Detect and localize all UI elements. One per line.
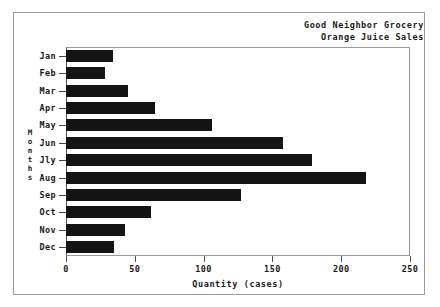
y-axis-label-apr: Apr — [39, 103, 56, 113]
chart-title-line1: Good Neighbor Grocery — [304, 19, 424, 31]
bar-row: Jly — [66, 154, 410, 166]
bar-row: Oct — [66, 206, 410, 218]
x-axis-label-50: 50 — [129, 264, 140, 274]
bar-oct — [66, 206, 151, 218]
bar-row: Feb — [66, 67, 410, 79]
bar-dec — [66, 241, 114, 253]
y-axis-tick — [59, 108, 66, 109]
x-axis-tick — [66, 256, 67, 262]
bar-feb — [66, 67, 105, 79]
y-axis-title-letter: s — [25, 173, 35, 182]
y-axis-tick — [59, 230, 66, 231]
y-axis-label-aug: Aug — [39, 173, 56, 183]
x-axis-tick — [135, 256, 136, 262]
x-axis-label-200: 200 — [333, 264, 350, 274]
bar-sep — [66, 189, 241, 201]
y-axis-tick — [59, 212, 66, 213]
y-axis-label-dec: Dec — [39, 242, 56, 252]
chart-title-block: Good Neighbor Grocery Orange Juice Sales — [304, 19, 424, 43]
x-axis-tick — [204, 256, 205, 262]
bar-apr — [66, 102, 155, 114]
chart-title-line2: Orange Juice Sales — [304, 31, 424, 43]
bar-row: Apr — [66, 102, 410, 114]
y-axis-tick — [59, 125, 66, 126]
y-axis-title: Months — [25, 128, 35, 182]
bar-jan — [66, 50, 113, 62]
bar-jly — [66, 154, 312, 166]
y-axis-tick — [59, 91, 66, 92]
y-axis-tick — [59, 160, 66, 161]
x-axis-tick — [341, 256, 342, 262]
y-axis-label-feb: Feb — [39, 68, 56, 78]
y-axis-tick — [59, 73, 66, 74]
plot-area: JanFebMarAprMayJunJlyAugSepOctNovDec 050… — [66, 47, 410, 256]
x-axis-label-100: 100 — [195, 264, 212, 274]
y-axis-title-letter: t — [25, 155, 35, 164]
x-axis-label-150: 150 — [264, 264, 281, 274]
y-axis-label-sep: Sep — [39, 190, 56, 200]
bar-nov — [66, 224, 125, 236]
y-axis-label-jly: Jly — [39, 155, 56, 165]
bar-row: Jan — [66, 50, 410, 62]
bar-row: Mar — [66, 85, 410, 97]
y-axis-label-may: May — [39, 120, 56, 130]
y-axis-tick — [59, 195, 66, 196]
bar-row: Aug — [66, 172, 410, 184]
y-axis-label-jan: Jan — [39, 51, 56, 61]
bar-row: Dec — [66, 241, 410, 253]
y-axis-tick — [59, 56, 66, 57]
bar-row: Sep — [66, 189, 410, 201]
x-axis-label-0: 0 — [63, 264, 69, 274]
x-axis-label-250: 250 — [402, 264, 419, 274]
y-axis-title-letter: h — [25, 164, 35, 173]
y-axis-tick — [59, 143, 66, 144]
y-axis-label-nov: Nov — [39, 225, 56, 235]
bar-aug — [66, 172, 366, 184]
bar-row: May — [66, 119, 410, 131]
x-axis-title: Quantity (cases) — [66, 279, 410, 289]
x-axis-tick — [410, 256, 411, 262]
chart-screenshot: Good Neighbor Grocery Orange Juice Sales… — [0, 0, 440, 307]
y-axis-title-letter: n — [25, 146, 35, 155]
y-axis-tick — [59, 178, 66, 179]
y-axis-title-letter: o — [25, 137, 35, 146]
bar-row: Nov — [66, 224, 410, 236]
x-axis-tick — [272, 256, 273, 262]
y-axis-title-letter: M — [25, 128, 35, 137]
y-axis-tick — [59, 247, 66, 248]
y-axis-label-mar: Mar — [39, 86, 56, 96]
bar-row: Jun — [66, 137, 410, 149]
bar-may — [66, 119, 212, 131]
y-axis-label-jun: Jun — [39, 138, 56, 148]
y-axis-label-oct: Oct — [39, 207, 56, 217]
bar-mar — [66, 85, 128, 97]
bar-jun — [66, 137, 283, 149]
